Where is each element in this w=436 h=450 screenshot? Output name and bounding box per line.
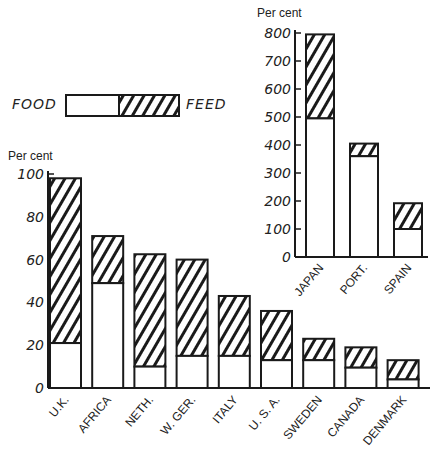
main-category-label: W. GER. — [158, 393, 199, 438]
main-tick-label: 20 — [26, 337, 44, 353]
inset-category-label: JAPAN — [291, 261, 326, 299]
bar-food-segment — [394, 229, 422, 257]
legend-food-label: FOOD — [12, 96, 57, 112]
bar-food-segment — [50, 343, 81, 388]
bar-feed-segment — [219, 296, 250, 356]
bar-feed-segment — [345, 347, 376, 367]
main-tick-label: 60 — [26, 252, 44, 268]
bar-feed-segment — [134, 254, 165, 366]
inset-tick-label: 500 — [264, 109, 291, 125]
main-category-label: AFRICA — [75, 393, 114, 436]
main-bar-uk — [50, 178, 81, 388]
bar-feed-segment — [50, 178, 81, 343]
main-category-label: NETH. — [122, 393, 156, 430]
main-bar-wger — [177, 260, 208, 388]
inset-tick-label: 700 — [264, 53, 291, 69]
bar-food-segment — [177, 356, 208, 388]
bar-feed-segment — [388, 360, 419, 379]
main-unit-label: Per cent — [8, 149, 53, 163]
main-tick-label: 100 — [17, 166, 44, 182]
main-tick-label: 80 — [26, 209, 44, 225]
main-category-label: U.K. — [46, 393, 72, 420]
main-category-label: SWEDEN — [280, 393, 325, 442]
legend-feed-label: FEED — [186, 96, 227, 112]
inset-category-label: PORT. — [337, 261, 370, 297]
bar-feed-segment — [92, 236, 123, 283]
bar-food-segment — [350, 156, 378, 257]
main-bar-africa — [92, 236, 123, 388]
inset-category-label: SPAIN — [381, 261, 414, 297]
inset-chart: Per cent0100200300400500600700800JAPANPO… — [257, 6, 428, 299]
main-bar-usa — [261, 311, 292, 388]
inset-tick-label: 600 — [264, 81, 291, 97]
inset-unit-label: Per cent — [257, 6, 302, 20]
bar-food-segment — [261, 360, 292, 388]
inset-tick-label: 800 — [264, 25, 291, 41]
legend-food-swatch — [66, 95, 119, 116]
bar-food-segment — [303, 360, 334, 388]
inset-tick-label: 0 — [282, 249, 291, 265]
main-tick-label: 40 — [26, 294, 44, 310]
legend: FOODFEED — [12, 95, 227, 116]
chart-canvas: FOODFEED Per cent020406080100U.K.AFRICAN… — [0, 0, 436, 450]
inset-tick-label: 300 — [264, 165, 291, 181]
bar-feed-segment — [306, 34, 334, 118]
inset-bar-japan — [306, 34, 334, 257]
bar-food-segment — [306, 118, 334, 257]
inset-bar-spain — [394, 203, 422, 257]
inset-tick-label: 200 — [264, 193, 291, 209]
bar-food-segment — [92, 283, 123, 388]
main-category-label: ITALY — [210, 393, 241, 426]
bar-food-segment — [134, 367, 165, 388]
main-bar-neth — [134, 254, 165, 388]
inset-tick-label: 100 — [264, 221, 291, 237]
main-bar-canada — [345, 347, 376, 388]
inset-tick-label: 400 — [264, 137, 291, 153]
bar-feed-segment — [350, 144, 378, 157]
main-category-label: DENMARK — [360, 393, 409, 448]
main-category-label: CANADA — [324, 393, 367, 440]
main-bar-sweden — [303, 339, 334, 388]
main-category-label: U. S. A. — [246, 393, 283, 433]
main-tick-label: 0 — [35, 380, 44, 396]
legend-feed-swatch — [119, 95, 179, 116]
bar-feed-segment — [394, 203, 422, 229]
main-bar-denmark — [388, 360, 419, 388]
bar-food-segment — [345, 368, 376, 388]
bar-feed-segment — [303, 339, 334, 360]
bar-food-segment — [388, 379, 419, 388]
bar-food-segment — [219, 356, 250, 388]
inset-bar-port — [350, 144, 378, 257]
main-bar-italy — [219, 296, 250, 388]
bar-feed-segment — [177, 260, 208, 356]
bar-feed-segment — [261, 311, 292, 360]
